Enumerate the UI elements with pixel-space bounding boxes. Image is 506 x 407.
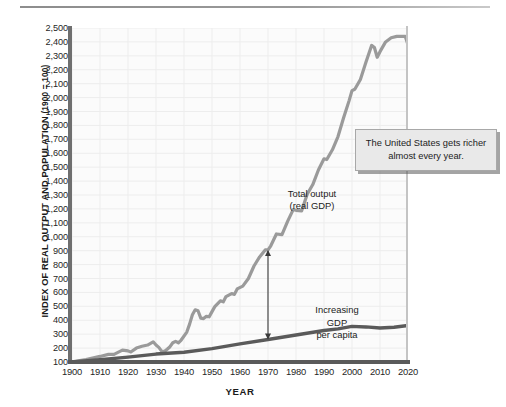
y-axis-tick-label: 800 <box>26 260 68 270</box>
y-axis-tick-label: 2,100 <box>26 79 68 89</box>
top-divider-rule <box>20 6 490 8</box>
y-axis-tick-label: 1,300 <box>26 190 68 200</box>
y-axis-tick-label: 1,900 <box>26 107 68 117</box>
y-axis-tick-label: 1,000 <box>26 232 68 242</box>
y-axis-tick-label: 700 <box>26 274 68 284</box>
series-label-total-output-line2: (real GDP) <box>258 200 366 212</box>
series-label-total-output: Total output (real GDP) <box>258 188 366 212</box>
y-axis-tick-label: 1,700 <box>26 134 68 144</box>
y-axis-tick-label: 2,300 <box>26 51 68 61</box>
annotation-gdp-per-capita-line3: per capita <box>305 329 369 342</box>
plot-area: Total output (real GDP) Population Incre… <box>72 28 408 362</box>
x-axis-spine <box>68 360 410 364</box>
y-axis-tick-label: 2,200 <box>26 65 68 75</box>
y-axis-tick-label: 2,400 <box>26 37 68 47</box>
annotation-gdp-per-capita-line1: Increasing <box>305 304 369 317</box>
y-axis-tick-label: 2,000 <box>26 93 68 103</box>
y-axis-tick-label: 1,800 <box>26 120 68 130</box>
series-label-total-output-line1: Total output <box>258 188 366 200</box>
y-axis-tick-label: 2,500 <box>26 23 68 33</box>
y-axis-tick-label: 1,100 <box>26 218 68 228</box>
y-axis-tick-label: 600 <box>26 287 68 297</box>
chart-figure: INDEX OF REAL OUTPUT AND POPULATION (190… <box>0 0 506 407</box>
callout-box: The United States gets richer almost eve… <box>355 129 497 171</box>
annotation-gdp-per-capita-line2: GDP <box>305 317 369 330</box>
y-axis-tick-label: 400 <box>26 315 68 325</box>
x-axis-title: YEAR <box>72 386 408 397</box>
y-axis-tick-label: 300 <box>26 329 68 339</box>
y-axis-tick-label: 500 <box>26 301 68 311</box>
gdp-per-capita-arrow <box>265 250 271 339</box>
plot-right-border <box>406 26 408 364</box>
y-axis-tick-label: 900 <box>26 246 68 256</box>
x-axis-tick-label: 2020 <box>388 366 428 377</box>
x-axis-tick-labels: 1900191019201930194019501960197019801990… <box>0 366 506 382</box>
y-axis-tick-label: 1,600 <box>26 148 68 158</box>
y-axis-tick-label: 1,200 <box>26 204 68 214</box>
y-axis-tick-label: 1,400 <box>26 176 68 186</box>
annotation-gdp-per-capita: Increasing GDP per capita <box>305 304 369 342</box>
y-axis-tick-labels: 1002003004005006007008009001,0001,1001,2… <box>26 22 68 366</box>
y-axis-tick-label: 1,500 <box>26 162 68 172</box>
y-axis-tick-label: 200 <box>26 343 68 353</box>
